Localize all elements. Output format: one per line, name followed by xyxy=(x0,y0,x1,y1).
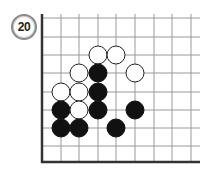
go-board xyxy=(0,0,210,170)
black-stone xyxy=(52,119,70,137)
white-stone xyxy=(70,101,88,119)
white-stone xyxy=(52,83,70,101)
black-stone xyxy=(52,101,70,119)
white-stone xyxy=(107,46,125,64)
white-stone xyxy=(89,46,107,64)
black-stone xyxy=(89,101,107,119)
white-stone xyxy=(70,64,88,82)
black-stone xyxy=(89,83,107,101)
black-stone xyxy=(126,101,144,119)
black-stone xyxy=(107,119,125,137)
white-stone xyxy=(126,64,144,82)
black-stone xyxy=(70,119,88,137)
black-stone xyxy=(89,64,107,82)
white-stone xyxy=(70,83,88,101)
